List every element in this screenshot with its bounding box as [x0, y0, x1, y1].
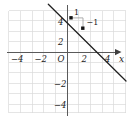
point-marker — [81, 27, 84, 30]
x-tick-label-minus4: −4 — [11, 55, 24, 64]
run-label: 1 — [74, 9, 79, 17]
y-tick-label-minus2: −2 — [54, 80, 67, 89]
x-axis-name: x — [119, 55, 124, 64]
x-tick-label-4: 4 — [105, 55, 110, 64]
y-tick-label-4: 4 — [58, 18, 63, 27]
rise-label: −1 — [87, 19, 99, 27]
x-tick-label-minus2: −2 — [35, 55, 48, 64]
y-tick-label-2: 2 — [58, 38, 63, 47]
point-marker — [69, 16, 72, 19]
x-tick-label-2: 2 — [82, 55, 87, 64]
origin-label: O — [58, 55, 65, 64]
coordinate-plane-figure: −4 −2 2 4 O 4 2 −2 −4 x 1 −1 — [0, 0, 129, 123]
y-tick-label-minus4: −4 — [54, 101, 67, 110]
